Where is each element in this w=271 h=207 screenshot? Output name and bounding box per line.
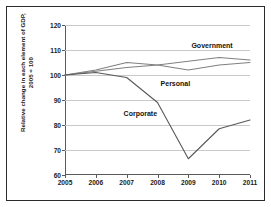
x-tick-mark — [188, 175, 189, 178]
y-tick-label: 90 — [39, 97, 61, 104]
y-tick-label: 80 — [39, 122, 61, 129]
x-tick-mark — [96, 175, 97, 178]
x-tick-label: 2009 — [173, 179, 203, 186]
y-tick-label: 120 — [39, 22, 61, 29]
y-tick-label: 70 — [39, 147, 61, 154]
plot-area: 60708090100110120 2005200620072008200920… — [65, 25, 250, 175]
series-label-personal: Personal — [161, 80, 191, 88]
x-tick-mark — [219, 175, 220, 178]
chart-figure: Relative change in each element of GDP, … — [0, 0, 271, 207]
y-tick-label: 60 — [39, 172, 61, 179]
x-tick-label: 2010 — [204, 179, 234, 186]
x-tick-label: 2011 — [235, 179, 265, 186]
x-tick-mark — [65, 175, 66, 178]
y-axis-title: Relative change in each element of GDP, … — [19, 7, 34, 139]
series-label-corporate: Corporate — [124, 110, 157, 118]
x-tick-label: 2006 — [81, 179, 111, 186]
x-tick-label: 2008 — [143, 179, 173, 186]
y-tick-label: 110 — [39, 47, 61, 54]
x-tick-mark — [127, 175, 128, 178]
x-tick-mark — [158, 175, 159, 178]
series-line-corporate — [65, 73, 250, 159]
y-axis-title-line2: 2005 = 100 — [27, 7, 35, 139]
y-axis-title-line1: Relative change in each element of GDP, — [19, 13, 26, 132]
chart-frame: Relative change in each element of GDP, … — [6, 6, 265, 201]
x-tick-label: 2007 — [112, 179, 142, 186]
x-tick-mark — [250, 175, 251, 178]
x-tick-label: 2005 — [50, 179, 80, 186]
y-tick-label: 100 — [39, 72, 61, 79]
series-label-government: Government — [191, 42, 232, 50]
